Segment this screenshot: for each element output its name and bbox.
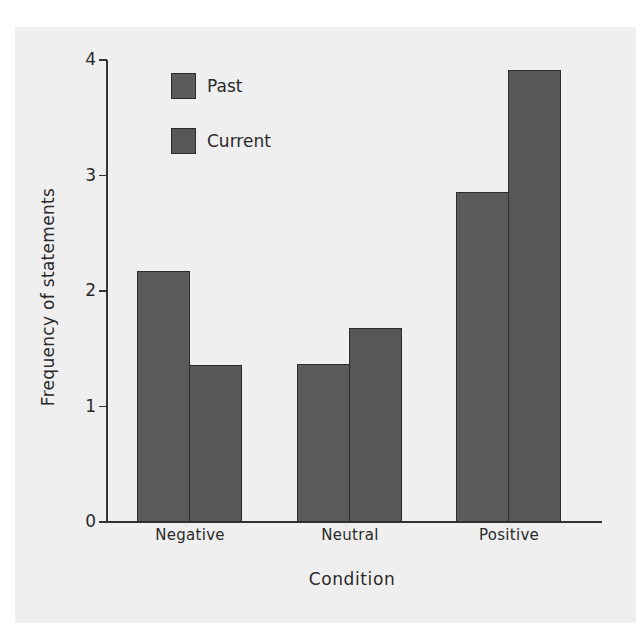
y-tick: [99, 290, 107, 292]
category-label-negative: Negative: [130, 526, 250, 544]
y-tick: [99, 406, 107, 408]
x-axis-title: Condition: [292, 569, 412, 589]
legend-swatch-current: [171, 128, 196, 154]
bar-past-positive: [456, 192, 509, 522]
bar-current-positive: [508, 70, 561, 522]
y-tick: [99, 175, 107, 177]
y-tick: [99, 521, 107, 523]
legend-label-past: Past: [207, 78, 242, 95]
category-label-neutral: Neutral: [290, 526, 410, 544]
y-tick-label: 4: [66, 51, 96, 68]
y-tick: [99, 59, 107, 61]
bar-past-neutral: [297, 364, 350, 522]
category-label-positive: Positive: [449, 526, 569, 544]
y-tick-label: 2: [66, 282, 96, 299]
legend-swatch-past: [171, 73, 196, 99]
y-tick-label: 3: [66, 167, 96, 184]
bar-current-negative: [189, 365, 242, 522]
bar-current-neutral: [349, 328, 402, 522]
y-tick-label: 0: [66, 513, 96, 530]
y-tick-label: 1: [66, 398, 96, 415]
legend-label-current: Current: [207, 133, 271, 150]
y-axis-title: Frequency of statements: [38, 188, 58, 406]
bar-past-negative: [137, 271, 190, 522]
